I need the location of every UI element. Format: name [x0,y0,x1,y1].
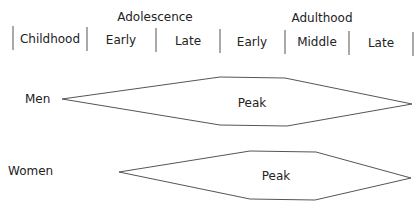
row-label-women: Women [8,164,53,178]
peak-label-men: Peak [238,96,267,110]
stage-label-late: Late [175,34,201,48]
stage-label-middle: Middle [297,35,337,49]
row-label-men: Men [25,92,50,106]
lifespan-diagram [0,0,418,206]
stage-label-early: Early [237,35,267,49]
peak-label-women: Peak [262,169,291,183]
stage-label-childhood: Childhood [20,32,80,46]
group-label-adulthood: Adulthood [291,11,352,25]
group-label-adolescence: Adolescence [117,10,193,24]
stage-label-early: Early [106,33,136,47]
stage-label-late: Late [368,36,394,50]
